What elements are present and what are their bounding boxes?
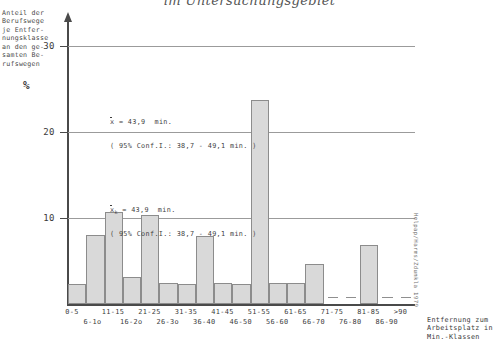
y-tick-20: [60, 132, 68, 134]
x-tick-label-16-2o: 16-2o: [120, 318, 143, 326]
mean-line-k: xk = 43,9 min.: [110, 206, 257, 214]
y-axis-unit-label: %: [23, 79, 30, 92]
source-credit: Helpap/Harms/Zdunkla 1979: [413, 213, 419, 307]
x-tick-label-86-90: 86-90: [376, 318, 399, 326]
mean-value-k: = 43,9 min.: [122, 206, 175, 214]
bar-26-3o: [159, 283, 177, 304]
ci-line-overall: ( 95% Conf.I.: 38,7 - 49,1 min. ): [110, 142, 257, 150]
x-axis-tick-labels: 0-56-1o11-1516-2o21-2526-3o31-3536-4041-…: [67, 308, 427, 334]
bar-46-50: [232, 284, 250, 304]
mean-line-overall: x = 43,9 min.: [110, 118, 257, 126]
x-tick-label-41-45: 41-45: [211, 308, 234, 316]
x-tick-label-21-25: 21-25: [138, 308, 161, 316]
x-tick-label-61-65: 61-65: [284, 308, 307, 316]
x-tick-label-31-35: 31-35: [175, 308, 198, 316]
bar-16-2o: [123, 277, 141, 304]
y-axis-caption: Anteil der Berufswege je Entfer- nungskl…: [2, 9, 66, 68]
ci-line-k: ( 95% Conf.I.: 38,7 - 49,1 min. ): [110, 230, 257, 238]
x-tick-label-11-15: 11-15: [102, 308, 125, 316]
y-tick-label-30: 30: [31, 41, 55, 51]
x-tick-label-66-70: 66-70: [303, 318, 326, 326]
x-axis-title: Entfernung zum Arbeitsplatz in Min.-Klas…: [427, 316, 493, 341]
x-tick-label-0-5: 0-5: [65, 308, 79, 316]
x-tick-label->90: >90: [394, 308, 408, 316]
bar-0-5: [68, 284, 86, 304]
x-axis-line: [67, 304, 415, 306]
annotation-group-overall: x = 43,9 min. ( 95% Conf.I.: 38,7 - 49,1…: [110, 102, 257, 166]
x-tick-label-46-50: 46-50: [230, 318, 253, 326]
y-tick-30: [60, 46, 68, 48]
y-tick-10: [60, 218, 68, 220]
y-tick-label-10: 10: [31, 213, 55, 223]
x-tick-label-81-85: 81-85: [357, 308, 380, 316]
bar-41-45: [214, 283, 232, 304]
bar-76-80: [342, 290, 360, 304]
mean-value-overall: = 43,9 min.: [119, 118, 172, 126]
bar-71-75: [324, 290, 342, 304]
y-tick-label-20: 20: [31, 127, 55, 137]
bar-81-85: [360, 245, 378, 304]
bar-66-70: [305, 264, 323, 304]
x-tick-label-6-1o: 6-1o: [83, 318, 101, 326]
bar-61-65: [287, 283, 305, 304]
mean-symbol-overall: x: [110, 118, 114, 126]
bar-6-1o: [86, 235, 104, 304]
statistics-annotation: x = 43,9 min. ( 95% Conf.I.: 38,7 - 49,1…: [110, 86, 257, 278]
bar-56-60: [269, 283, 287, 304]
x-tick-label-26-3o: 26-3o: [156, 318, 179, 326]
x-tick-label-51-55: 51-55: [248, 308, 271, 316]
x-tick-label-71-75: 71-75: [321, 308, 344, 316]
x-tick-label-56-60: 56-60: [266, 318, 289, 326]
bar-86-90: [378, 290, 396, 304]
chart-title: im Untersuchungsgebiet: [0, 0, 499, 8]
x-tick-label-76-80: 76-80: [339, 318, 362, 326]
mean-subscript-k: k: [114, 209, 117, 215]
chart-page: im Untersuchungsgebiet Anteil der Berufs…: [0, 0, 499, 346]
annotation-group-k: xk = 43,9 min. ( 95% Conf.I.: 38,7 - 49,…: [110, 190, 257, 254]
bar-31-35: [178, 284, 196, 304]
x-tick-label-36-40: 36-40: [193, 318, 216, 326]
